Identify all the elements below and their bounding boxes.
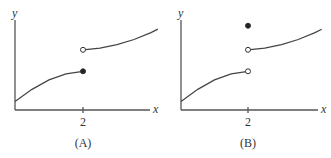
right-piece-curve-b (248, 29, 322, 50)
panel-caption-b: (B) (240, 136, 256, 150)
right-piece-endpoint-open-b (246, 47, 251, 52)
panel-caption-a: (A) (75, 136, 92, 150)
y-axis-label-a: y (11, 6, 18, 20)
right-piece-curve-a (83, 29, 158, 50)
left-piece-endpoint-filled-a (81, 69, 86, 74)
x-tick-label-b: 2 (245, 115, 251, 129)
left-piece-curve-b (181, 71, 248, 101)
x-axis-label-b: x (320, 102, 327, 116)
y-axis-label-b: y (177, 6, 184, 20)
isolated-point-b (246, 23, 251, 28)
piecewise-graphs-figure: yx2(A)yx2(B) (0, 0, 331, 158)
left-piece-endpoint-open-b (246, 69, 251, 74)
right-piece-endpoint-open-a (81, 47, 86, 52)
x-axis-label-a: x (152, 102, 159, 116)
left-piece-curve-a (15, 71, 83, 101)
x-tick-label-a: 2 (80, 115, 86, 129)
